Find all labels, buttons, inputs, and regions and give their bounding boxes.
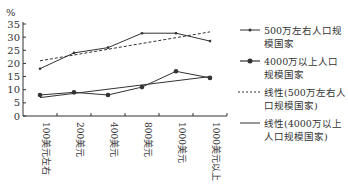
y-tick-label: 20 <box>7 58 20 69</box>
series-line-2 <box>40 32 210 61</box>
data-point-marker <box>106 93 111 98</box>
data-point-marker <box>107 46 110 49</box>
y-tick-label: 5 <box>14 97 20 108</box>
y-tick-label: 10 <box>7 84 20 95</box>
data-point-marker <box>141 32 144 35</box>
series-line-1 <box>40 71 210 95</box>
y-tick-label: 30 <box>7 32 20 43</box>
x-tick-label: 400美元 <box>109 122 120 157</box>
legend-line-marker-icon <box>238 55 264 68</box>
data-point-marker <box>209 40 212 43</box>
y-tick-label: 15 <box>7 71 20 82</box>
legend-label: 4000万以上人口规模国家 <box>264 55 348 81</box>
legend-item-500w: 500万左右人口规模国家 <box>238 24 348 50</box>
legend-label: 线性(4000万以上人口规模国家) <box>264 117 348 143</box>
series-line-3 <box>40 77 210 98</box>
legend-item-4000w: 4000万以上人口规模国家 <box>238 55 348 81</box>
y-tick-label: 25 <box>7 45 20 56</box>
x-tick-label: 200美元 <box>75 122 86 157</box>
data-point-marker <box>174 69 179 74</box>
x-tick-label: 800美元 <box>143 122 154 157</box>
legend-solid-line-icon <box>238 117 264 130</box>
legend-label: 线性(500万左右人口规模国家) <box>264 86 348 112</box>
data-point-marker <box>175 32 178 35</box>
data-point-marker <box>38 93 43 98</box>
data-point-marker <box>39 67 42 70</box>
series-line-0 <box>40 33 210 68</box>
y-tick-label: 35 <box>7 19 20 30</box>
legend-item-trend-4000w: 线性(4000万以上人口规模国家) <box>238 117 348 143</box>
legend-item-trend-500w: 线性(500万左右人口规模国家) <box>238 86 348 112</box>
legend-label: 500万左右人口规模国家 <box>264 24 348 50</box>
x-tick-label: 1000美元以上 <box>211 122 222 181</box>
legend-dashed-line-icon <box>238 86 264 99</box>
data-point-marker <box>73 52 76 55</box>
x-tick-label: 100美元左右 <box>41 122 52 175</box>
x-tick-label: 1000美元 <box>177 122 188 163</box>
chart-legend: 500万左右人口规模国家 4000万以上人口规模国家 线性(500万左右人口规模… <box>238 24 348 148</box>
y-axis-label: % <box>6 7 16 18</box>
legend-line-marker-icon <box>238 24 264 37</box>
y-tick-label: 0 <box>14 111 20 122</box>
